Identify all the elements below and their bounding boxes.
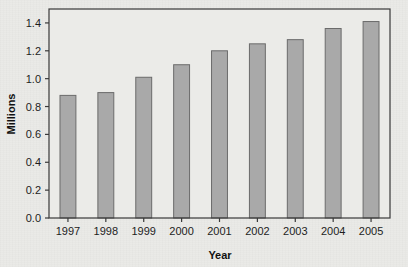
y-axis-tick-label: 1.2: [26, 45, 41, 57]
x-axis-tick-label: 1999: [131, 225, 155, 237]
y-axis-tick-label: 0.8: [26, 101, 41, 113]
x-axis-tick-label: 1997: [56, 225, 80, 237]
bar: [174, 65, 190, 218]
bar: [136, 77, 152, 218]
x-axis-tick-label: 2000: [169, 225, 193, 237]
bar: [363, 22, 379, 218]
x-axis-tick-label: 2004: [321, 225, 345, 237]
y-axis-title: Millions: [5, 94, 17, 135]
y-axis-tick-label: 0.2: [26, 184, 41, 196]
x-axis-title: Year: [208, 249, 232, 261]
bar: [287, 40, 303, 218]
bar: [98, 93, 114, 218]
y-axis-tick-label: 0.6: [26, 128, 41, 140]
x-axis-tick-label: 2003: [283, 225, 307, 237]
bar-chart: 0.00.20.40.60.81.01.21.4 199719981999200…: [0, 0, 408, 267]
x-axis: 199719981999200020012002200320042005: [56, 218, 384, 237]
figure-background: 0.00.20.40.60.81.01.21.4 199719981999200…: [0, 0, 408, 267]
x-axis-tick-label: 2002: [245, 225, 269, 237]
bar: [249, 44, 265, 218]
y-axis-tick-label: 1.4: [26, 17, 41, 29]
x-axis-tick-label: 1998: [94, 225, 118, 237]
bar: [212, 51, 228, 218]
y-axis-tick-label: 0.4: [26, 156, 41, 168]
bar: [325, 29, 341, 218]
bar: [60, 95, 76, 218]
y-axis-tick-label: 0.0: [26, 212, 41, 224]
y-axis: 0.00.20.40.60.81.01.21.4: [26, 17, 49, 224]
y-axis-tick-label: 1.0: [26, 73, 41, 85]
x-axis-tick-label: 2005: [359, 225, 383, 237]
x-axis-tick-label: 2001: [207, 225, 231, 237]
